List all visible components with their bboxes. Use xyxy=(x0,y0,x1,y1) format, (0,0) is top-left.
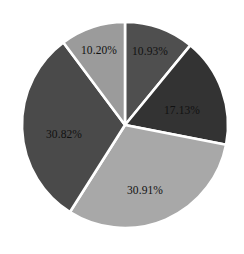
pie-slice-label: 10.20% xyxy=(81,44,117,56)
pie-slice-label: 30.91% xyxy=(127,184,163,196)
pie-chart-svg xyxy=(0,0,244,254)
pie-chart-figure: 10.93%17.13%30.91%30.82%10.20% xyxy=(0,0,244,254)
pie-slice-label: 30.82% xyxy=(46,128,82,140)
pie-slice-label: 10.93% xyxy=(132,45,168,57)
pie-slice-label: 17.13% xyxy=(164,104,200,116)
